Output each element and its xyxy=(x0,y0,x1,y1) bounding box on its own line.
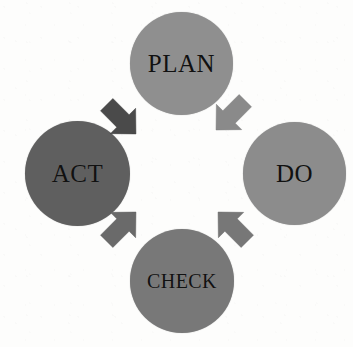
arrow-do-to-check-icon xyxy=(210,204,256,250)
cycle-node-do-label: DO xyxy=(276,161,313,186)
arrow-check-to-act-icon xyxy=(98,204,144,250)
cycle-node-act-label: ACT xyxy=(52,161,104,186)
arrow-plan-to-do-icon xyxy=(208,92,254,138)
cycle-node-plan-label: PLAN xyxy=(148,51,215,76)
cycle-node-check-label: CHECK xyxy=(147,271,217,291)
cycle-node-do[interactable]: DO xyxy=(243,122,346,225)
pdca-cycle-diagram: PLAN DO CHECK ACT xyxy=(0,0,353,347)
arrow-act-to-plan-icon xyxy=(98,96,144,142)
